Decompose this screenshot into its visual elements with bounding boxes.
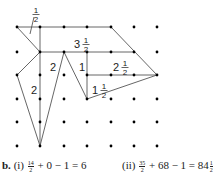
lattice-dot: [86, 98, 89, 101]
svg-text:2: 2: [50, 61, 56, 73]
lattice-dot: [133, 51, 136, 54]
lattice-dot: [39, 74, 42, 77]
svg-text:2: 2: [113, 61, 119, 73]
lattice-dot: [39, 98, 42, 101]
lattice-dot: [16, 121, 19, 124]
caption: b. (i) 14 2 + 0 − 1 = 6 (ii) 35 2 + 68 −…: [2, 159, 86, 173]
part1-fraction: 14 2: [28, 160, 34, 173]
lattice-dot: [156, 98, 159, 101]
lattice-dot: [110, 145, 113, 148]
lattice-dot: [86, 74, 89, 77]
svg-text:1: 1: [92, 84, 98, 96]
lattice-dot: [39, 51, 42, 54]
region-label-two-left-lower: 2: [31, 84, 37, 96]
part1-roman: (i): [14, 159, 24, 171]
lattice-dot: [156, 51, 159, 54]
lattice-dot: [86, 26, 89, 29]
lattice-dot: [39, 145, 42, 148]
svg-text:2: 2: [31, 84, 37, 96]
lattice-dot: [63, 51, 66, 54]
pick-theorem-figure: 12312212122112: [0, 0, 219, 158]
lattice-dot: [156, 26, 159, 29]
part2-mixed-fraction: 1 2: [210, 160, 213, 173]
part2-roman: (ii): [122, 159, 135, 171]
region-labels: 12312212122112: [31, 6, 129, 100]
region-label-one-half: 112: [92, 82, 108, 100]
region-label-one: 1: [79, 61, 85, 73]
svg-text:1: 1: [84, 36, 89, 45]
svg-text:1: 1: [34, 6, 39, 15]
lattice-dot: [133, 26, 136, 29]
svg-text:2: 2: [34, 15, 39, 24]
lattice-dot: [63, 26, 66, 29]
part1-rest: + 0 − 1 = 6: [38, 159, 87, 171]
svg-text:2: 2: [84, 45, 89, 54]
part2: (ii) 35 2 + 68 − 1 = 84 1 2: [122, 159, 214, 173]
lattice-dot: [110, 26, 113, 29]
region-label-two-half: 212: [113, 59, 129, 77]
caption-label: b.: [2, 159, 11, 171]
lattice-dot: [133, 121, 136, 124]
lattice-dot: [16, 26, 19, 29]
part2-fraction: 35 2: [139, 160, 145, 173]
lattice-dot: [16, 98, 19, 101]
lattice-dot: [86, 145, 89, 148]
lattice-dot: [63, 121, 66, 124]
lattice-dot: [156, 145, 159, 148]
region-label-two-left-upper: 2: [50, 61, 56, 73]
svg-text:1: 1: [79, 61, 85, 73]
lattice-dot: [133, 74, 136, 77]
lattice-dot: [110, 74, 113, 77]
svg-text:3: 3: [74, 38, 80, 50]
lattice-dot: [39, 121, 42, 124]
lattice-dot: [63, 98, 66, 101]
lattice-dot: [16, 145, 19, 148]
lattice-dot: [16, 51, 19, 54]
svg-text:1: 1: [123, 59, 128, 68]
svg-text:1: 1: [102, 82, 107, 91]
region-label-half-top: 12: [33, 6, 40, 24]
region-label-three-half: 312: [74, 36, 90, 54]
lattice-dot: [156, 121, 159, 124]
lattice-dot: [86, 121, 89, 124]
lattice-dot: [156, 74, 159, 77]
lattice-dot: [110, 98, 113, 101]
lattice-dot: [110, 51, 113, 54]
lattice-dot: [16, 74, 19, 77]
lattice-dot: [133, 98, 136, 101]
svg-text:2: 2: [123, 68, 128, 77]
part2-rest: + 68 − 1 = 84: [149, 159, 209, 171]
lattice-dot: [63, 74, 66, 77]
lattice-dot: [63, 145, 66, 148]
lattice-dot: [133, 145, 136, 148]
lattice-dot: [39, 26, 42, 29]
lattice-dot: [110, 121, 113, 124]
svg-text:2: 2: [102, 91, 107, 100]
